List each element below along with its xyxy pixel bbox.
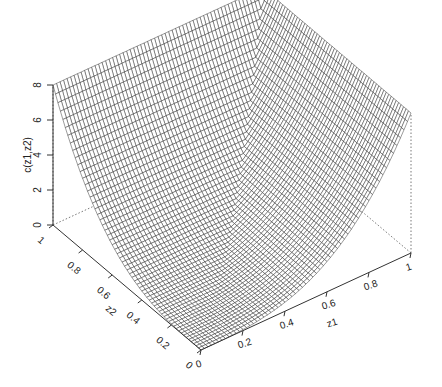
x-tick-label: 1 — [404, 261, 413, 273]
x-axis-title: z1 — [325, 316, 339, 330]
z-tick-label: 8 — [32, 82, 43, 88]
x-tick-label: 0.2 — [236, 336, 253, 351]
z-tick-label: 4 — [32, 152, 43, 158]
y-tick-label: 1 — [36, 234, 48, 246]
y-tick-label: 0 — [184, 359, 196, 371]
x-tick-label: 0.8 — [362, 277, 379, 292]
x-tick-label: 0.6 — [320, 297, 337, 312]
z-tick-label: 6 — [32, 117, 43, 123]
y-tick-label: 0.6 — [95, 284, 113, 302]
plot-canvas: 00.20.40.60.8100.20.40.60.8102468z1z2c(z… — [0, 0, 442, 387]
y-tick-label: 0.8 — [65, 259, 83, 277]
y-tick-label: 0.4 — [125, 309, 143, 327]
z-axis-title: c(z1,z2) — [22, 137, 33, 173]
y-tick-label: 0.2 — [154, 334, 172, 352]
y-axis-title: z2 — [104, 303, 119, 318]
z-tick-label: 0 — [32, 222, 43, 228]
z-tick-label: 2 — [32, 187, 43, 193]
perspective-plot: 00.20.40.60.8100.20.40.60.8102468z1z2c(z… — [0, 0, 442, 387]
x-tick-label: 0.4 — [278, 316, 295, 331]
x-tick-label: 0 — [194, 358, 203, 370]
